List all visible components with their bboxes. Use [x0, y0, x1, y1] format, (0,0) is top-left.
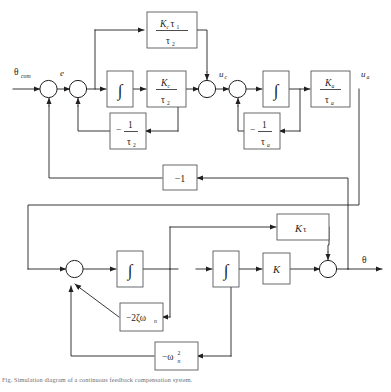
- block-neg-inv-tau2-sign: −: [116, 125, 121, 135]
- block-diagram-canvas: K c τ 1 τ 2 ∫ K c τ 2 − 1 τ 2 ∫ K a τ a …: [0, 0, 391, 392]
- sum-junction-2: [69, 80, 86, 97]
- block-k-tau-main: K: [294, 223, 303, 234]
- wire-top-block-down: [197, 30, 207, 72]
- block-negomega2-sup: 2: [178, 350, 181, 356]
- block-k-tau-sub: τ: [303, 224, 307, 234]
- wire-neg-inv-taua-to-sum4: [238, 106, 244, 131]
- signal-label-e: e: [60, 68, 64, 78]
- signal-label-uc-sub: c: [225, 74, 228, 80]
- wire-neg-inv-tau2-to-sum2: [78, 106, 110, 131]
- block-kc-tau2-den-sub: 2: [167, 100, 170, 106]
- block-neg-inv-taua-den: τ: [261, 137, 265, 147]
- block-neg-inv-tau2-num: 1: [128, 120, 133, 130]
- signal-label-theta-com-sub: com: [21, 73, 31, 79]
- block-neg2zeta-sub: n: [154, 318, 157, 324]
- block-neg-inv-tau2-den: τ: [127, 137, 131, 147]
- sum-junction-4: [229, 80, 246, 97]
- sum-junction-6: [319, 260, 336, 277]
- block-negomega2-main: −ω: [162, 352, 174, 362]
- wire-neg2zeta-diag-to-sum5: [80, 288, 119, 317]
- block-neg-inv-tau2-den-sub: 2: [133, 142, 136, 148]
- block-neg2zeta-main: −2ζω: [126, 313, 146, 324]
- block-kc-tau1-num-tau: τ: [171, 19, 175, 29]
- wire-neg2zeta-out: [80, 288, 119, 317]
- block-kc-tau1-den-tau: τ: [166, 36, 170, 46]
- block-kc-tau1-num-tau-sub: 1: [177, 24, 180, 30]
- signal-label-ua: u: [361, 69, 366, 79]
- block-kc-tau1-den-sub: 2: [172, 41, 175, 47]
- block-neg-inv-taua-sign: −: [250, 125, 255, 135]
- wire-neg-inv-tau2-out: [78, 106, 110, 131]
- block-ka-taua-num-sub: a: [332, 83, 335, 89]
- block-kc-tau2-den: τ: [161, 95, 165, 105]
- block-diagram-figure: K c τ 1 τ 2 ∫ K c τ 2 − 1 τ 2 ∫ K a τ a …: [0, 0, 391, 392]
- block-ka-taua-den-sub: a: [331, 100, 334, 106]
- block-minus-one-label: −1: [175, 173, 186, 184]
- block-neg-inv-taua-den-sub: a: [267, 142, 270, 148]
- signal-label-ua-sub: a: [367, 74, 370, 80]
- wire-into-sum5-diag: [75, 284, 80, 288]
- wire-top-block-to-sum3: [197, 30, 207, 72]
- block-negomega2-sub: n: [178, 358, 181, 364]
- block-ka-taua-den: τ: [325, 95, 329, 105]
- wire-neg-inv-taua-out: [238, 106, 244, 131]
- signal-label-theta-com: θ: [14, 67, 19, 77]
- sum-junction-1: [40, 80, 57, 97]
- signal-label-theta-output: θ: [362, 255, 367, 265]
- block-gain-k-label: K: [272, 264, 281, 275]
- signal-label-uc: u: [219, 69, 224, 79]
- figure-caption: Fig. Simulation diagram of a continuous …: [2, 376, 192, 383]
- sum-junction-5: [66, 260, 83, 277]
- block-neg-inv-taua-num: 1: [262, 120, 267, 130]
- sum-junction-3: [198, 80, 215, 97]
